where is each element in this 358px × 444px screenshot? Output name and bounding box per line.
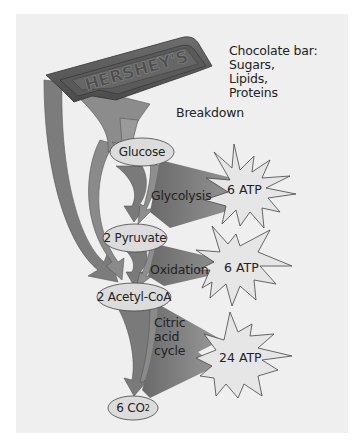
pyruvate-node: 2 Pyruvate	[103, 230, 167, 246]
glucose-node: Glucose	[110, 144, 174, 160]
source-label-line2: Sugars,	[229, 58, 317, 72]
co2-node: 6 CO2	[108, 400, 158, 416]
co2-text: 6 CO	[116, 401, 144, 415]
source-label: Chocolate bar: Sugars, Lipids, Proteins	[229, 44, 317, 100]
breakdown-label: Breakdown	[176, 106, 244, 120]
atp-yield-2: 6 ATP	[224, 260, 259, 275]
citric-acid-label: Citric acid cycle	[154, 316, 185, 358]
citric-line1: Citric	[154, 316, 185, 330]
co2-subscript: 2	[145, 404, 150, 413]
chocolate-bar: HERSHEY'S	[46, 37, 212, 102]
source-label-line4: Proteins	[229, 86, 317, 100]
citric-line2: acid	[154, 330, 185, 344]
source-label-line3: Lipids,	[229, 72, 317, 86]
citric-line3: cycle	[154, 344, 185, 358]
glycolysis-label: Glycolysis	[151, 189, 211, 203]
oxidation-label: Oxidation	[150, 263, 208, 277]
acetyl-coa-node: 2 Acetyl-CoA	[97, 289, 171, 305]
atp-yield-3: 24 ATP	[219, 350, 262, 365]
source-label-line1: Chocolate bar:	[229, 44, 317, 58]
atp-yield-1: 6 ATP	[227, 182, 262, 197]
